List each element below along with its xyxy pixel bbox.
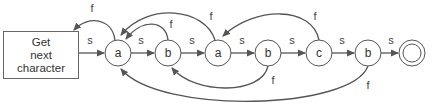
state-a2: a [205,40,231,66]
f-label: f [366,79,370,91]
f-label: f [209,10,213,22]
state-label: a [115,46,122,60]
edge-f-b2-b1 [172,66,268,88]
s-label: s [138,34,144,46]
box-line-2: next [30,49,53,61]
state-b1: b [155,40,181,66]
edge-f-a1-start [74,21,115,40]
edge-f-b1-a1 [126,24,168,40]
state-c: c [306,40,332,66]
state-final-accept [399,40,425,66]
get-next-character-box: Get next character [4,32,79,79]
edge-f-c-a2 [223,14,319,40]
s-label: s [388,34,394,46]
state-b2: b [255,40,281,66]
box-line-1: Get [32,36,51,48]
f-label: f [313,10,317,22]
automaton-diagram: Get next character s s s s s s s [0,0,433,109]
s-label: s [289,34,295,46]
state-b3: b [355,40,381,66]
f-label: f [271,74,275,86]
s-label: s [239,34,245,46]
state-label: c [316,46,322,60]
state-label: b [265,46,272,60]
edge-f-b3-a1 [121,66,368,101]
box-line-3: character [17,62,65,74]
s-label: s [189,34,195,46]
f-label: f [90,2,94,14]
state-a1: a [105,40,131,66]
success-labels: s s s s s s s [87,34,394,46]
s-label: s [87,34,93,46]
f-label: f [169,18,173,30]
state-label: b [365,46,372,60]
state-label: b [165,46,172,60]
edge-f-a2-a1 [121,13,215,40]
s-label: s [339,34,345,46]
state-label: a [215,46,222,60]
